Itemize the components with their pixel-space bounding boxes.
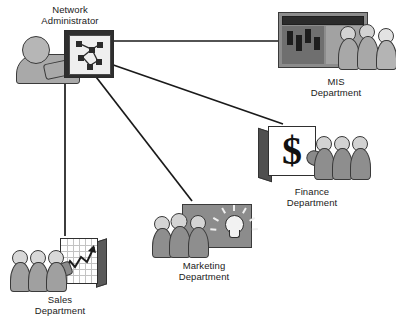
lightbulb-board-with-people-icon [152,204,256,256]
growth-chart-with-people-icon [8,238,112,290]
node-marketing-department[interactable]: Marketing Department [152,204,256,282]
sales-person [46,250,65,290]
network-topology-screen [64,30,114,78]
mis-block [305,29,311,43]
node-label-mis-department: MIS Department [276,76,396,98]
bulb-ray [249,217,255,222]
node-finance-department[interactable]: $ Finance Department [256,126,368,208]
network-node [78,55,84,61]
bulb-ray [242,207,247,213]
node-mis-department[interactable]: MIS Department [276,12,396,98]
lightbulb-base [229,230,240,238]
person-at-network-screen-icon [16,28,124,88]
mis-person [376,28,395,68]
bulb-ray [252,228,258,231]
network-node [96,59,102,65]
bulb-ray [233,205,235,211]
finance-person-body [350,148,371,180]
sales-person [28,250,47,290]
mis-top-rail [282,16,364,25]
marketing-person-body [188,227,209,258]
connection-admin-to-finance [99,60,283,124]
node-label-sales-department: Sales Department [8,294,112,316]
node-sales-department[interactable]: Sales Department [8,238,112,316]
mis-person [338,26,358,68]
node-label-finance-department: Finance Department [256,186,368,208]
mis-person [357,24,377,68]
connection-admin-to-marketing [93,73,192,201]
node-label-network-administrator: Network Administrator [16,4,124,26]
diagram-canvas: Network Administrator [0,0,396,334]
bulb-ray [210,228,216,231]
sales-person-body [46,262,67,292]
bulb-ray [221,207,226,213]
network-node [89,47,95,53]
mis-block [287,31,293,45]
server-board-with-people-icon [276,12,396,72]
marketing-person [169,213,189,256]
dollar-whiteboard-with-people-icon: $ [256,126,368,182]
finance-person [350,136,369,178]
sales-person [10,250,29,290]
finance-person [314,136,333,178]
mis-block [296,35,302,51]
marketing-person [188,215,207,256]
bulb-ray [213,217,219,222]
node-network-administrator[interactable]: Network Administrator [16,4,124,88]
network-topology-diagram [69,35,111,75]
network-node [76,41,82,47]
mis-block [314,37,320,50]
network-node [87,64,93,70]
finance-person [332,136,351,178]
node-label-marketing-department: Marketing Department [152,260,256,282]
mis-person-body [376,40,396,70]
admin-head [22,36,50,64]
network-node [97,42,103,48]
